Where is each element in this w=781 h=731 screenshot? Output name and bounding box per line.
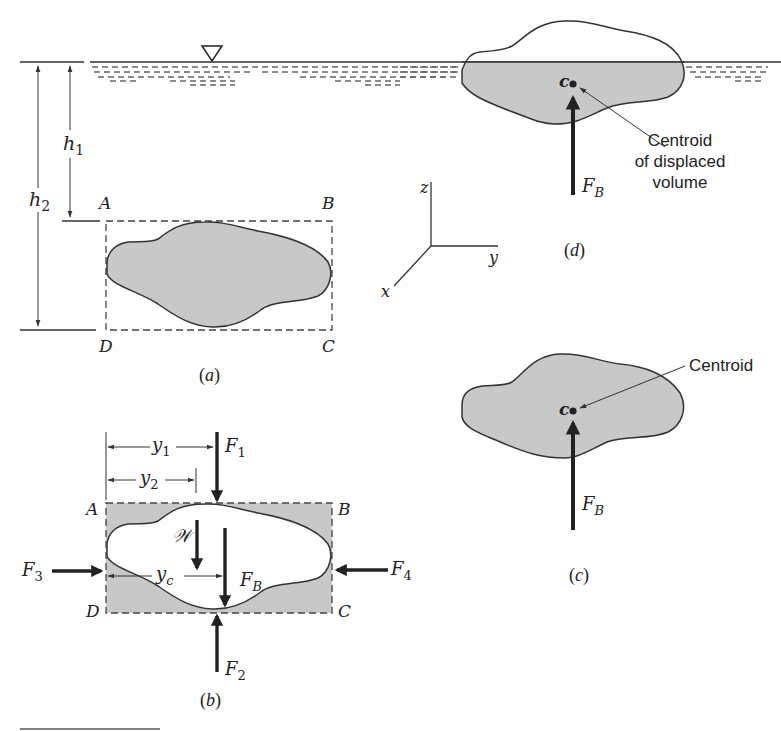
centroid-label-line-2: of displaced xyxy=(635,152,726,171)
buoyancy-figure: h2 h1 A B D C (a) z y x c FB Centroid xyxy=(0,0,781,731)
corner-label-a-b: A xyxy=(84,499,98,519)
caption-b: (b) xyxy=(200,690,221,711)
panel-b: y1 y2 yc F1 𝒲 FB F2 F3 F4 A B D C (b) xyxy=(21,432,412,711)
h2-label: h2 xyxy=(29,188,50,214)
centroid-label-line-1: Centroid xyxy=(648,131,712,150)
centroid-label-c-d: c xyxy=(559,71,570,91)
corner-label-b-b: B xyxy=(337,499,351,519)
y1-label: y1 xyxy=(151,434,170,459)
caption-d: (d) xyxy=(564,240,585,261)
caption-a: (a) xyxy=(199,365,220,386)
f4-label: F4 xyxy=(390,558,412,583)
panel-c: c FB Centroid (c) xyxy=(462,354,753,586)
fb-label-c: FB xyxy=(581,493,604,518)
centroid-label-line-3: volume xyxy=(653,173,708,192)
submerged-body xyxy=(107,222,331,327)
corner-label-d: D xyxy=(98,336,113,356)
f1-label: F1 xyxy=(224,435,246,460)
corner-label-d-b: D xyxy=(85,601,100,621)
centroid-point-d xyxy=(569,80,576,87)
x-axis xyxy=(394,246,431,286)
corner-label-c-b: C xyxy=(338,601,351,621)
panel-d: c FB Centroid of displaced volume (d) xyxy=(462,21,725,261)
h1-label: h1 xyxy=(63,132,84,158)
corner-label-c: C xyxy=(322,336,335,356)
centroid-label-c-c: c xyxy=(559,399,570,419)
centroid-label-c-text: Centroid xyxy=(689,356,753,375)
centroid-point-c xyxy=(569,407,576,414)
coordinate-axes xyxy=(394,182,498,286)
corner-label-a: A xyxy=(97,193,111,213)
fb-label-d: FB xyxy=(581,175,604,200)
free-surface-triangle-icon xyxy=(202,46,222,61)
f2-label: F2 xyxy=(224,658,246,683)
z-axis-label: z xyxy=(419,178,429,197)
f3-label: F3 xyxy=(21,559,43,584)
x-axis-label: x xyxy=(381,282,390,301)
y-axis-label: y xyxy=(488,248,499,267)
corner-label-b: B xyxy=(321,193,335,213)
caption-c: (c) xyxy=(569,565,589,586)
water-hatching-left xyxy=(92,67,460,85)
y2-label: y2 xyxy=(139,467,158,492)
